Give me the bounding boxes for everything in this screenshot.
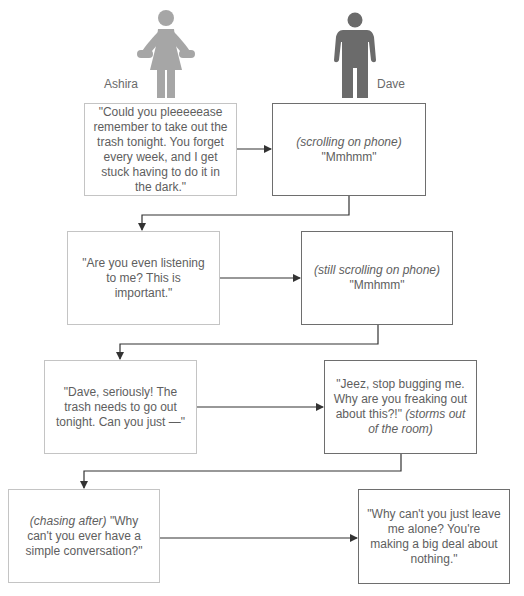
ashira-speech-box-4: (chasing after) "Why can't you ever have… (8, 489, 160, 583)
ashira-speech-text: "Are you even listening to me? This is i… (76, 256, 211, 301)
dave-speech-box-1: (scrolling on phone) "Mmhmm" (272, 103, 426, 196)
ashira-speech-box-1: "Could you pleeeeease remember to take o… (84, 103, 237, 196)
dave-speech-box-4: "Why can't you just leave me alone? You'… (358, 489, 510, 584)
dave-speech-text: "Why can't you just leave me alone? You'… (367, 507, 501, 567)
dave-speech-box-3: "Jeez, stop bugging me. Why are you frea… (324, 360, 477, 454)
ashira-speech-text: "Could you pleeeeease remember to take o… (93, 105, 228, 195)
dave-action-text: (still scrolling on phone) (314, 263, 440, 278)
dave-speech-box-2: (still scrolling on phone) "Mmhmm" (301, 231, 453, 325)
dave-action-text: (scrolling on phone) (296, 135, 401, 150)
ashira-speech-text: "Dave, seriously! The trash needs to go … (53, 385, 188, 430)
ashira-speech-box-2: "Are you even listening to me? This is i… (67, 231, 220, 325)
dave-speech-text: "Mmhmm" (296, 150, 401, 165)
ashira-speech-box-3: "Dave, seriously! The trash needs to go … (44, 360, 197, 454)
ashira-action-text: (chasing after) (30, 514, 107, 528)
dave-speech-text: "Mmhmm" (314, 278, 440, 293)
